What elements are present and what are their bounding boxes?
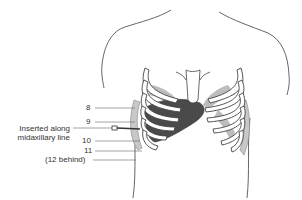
insertion-label-line2: midaxillary line [4, 133, 70, 142]
rib-9-label: 9 [86, 117, 90, 126]
right-ribs [205, 68, 245, 152]
insertion-label-line1: Inserted along [4, 124, 70, 133]
sternum [176, 70, 210, 103]
rib-11-label: 11 [84, 146, 92, 155]
rib-12-label: (12 behind) [45, 155, 85, 164]
rib-10-label: 10 [82, 136, 91, 145]
torso-diagram [0, 0, 302, 200]
rib-8-label: 8 [86, 103, 90, 112]
